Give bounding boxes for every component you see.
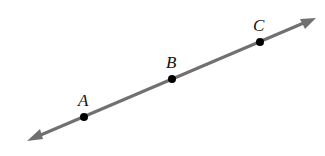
line-diagram: A B C [0,0,325,156]
point-b [168,75,176,83]
point-c [256,38,264,46]
arrow-head-right-icon [300,18,316,29]
label-b: B [166,53,177,72]
label-c: C [253,16,265,35]
label-a: A [77,91,89,110]
point-a [80,113,88,121]
diagram-canvas: A B C [0,0,325,156]
arrow-head-left-icon [27,129,43,141]
